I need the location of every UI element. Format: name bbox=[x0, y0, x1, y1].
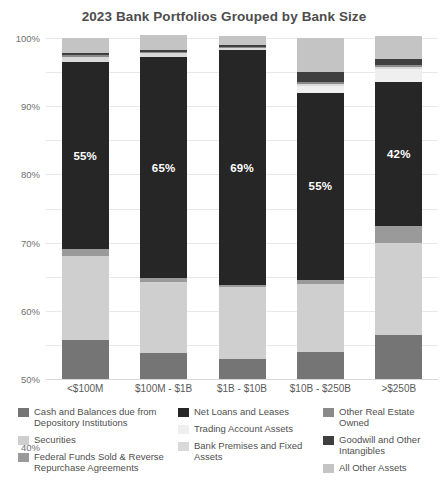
y-axis-tick-label: 90% bbox=[21, 101, 40, 112]
bar-segment[interactable] bbox=[297, 82, 344, 84]
y-axis-tick-label: 100% bbox=[16, 33, 40, 44]
bar-segment[interactable]: 55% bbox=[62, 62, 109, 250]
bar-segment[interactable] bbox=[62, 53, 109, 55]
legend-label: Federal Funds Sold & Reverse Repurchase … bbox=[34, 451, 178, 473]
legend-swatch-icon bbox=[178, 408, 189, 417]
bar-segment[interactable] bbox=[297, 352, 344, 379]
bar-segment[interactable] bbox=[297, 284, 344, 352]
bar-segment[interactable] bbox=[219, 48, 266, 50]
bar-value-label: 55% bbox=[62, 150, 109, 162]
legend-label: All Other Assets bbox=[339, 462, 407, 473]
legend-label: Trading Account Assets bbox=[194, 423, 293, 434]
bar-segment[interactable] bbox=[375, 335, 422, 379]
bar-segment[interactable] bbox=[375, 243, 422, 335]
bar-segment[interactable] bbox=[375, 59, 422, 66]
bar-segment[interactable] bbox=[140, 278, 187, 281]
legend-item[interactable]: Cash and Balances due from Depository In… bbox=[18, 406, 178, 428]
legend-item[interactable]: Federal Funds Sold & Reverse Repurchase … bbox=[18, 451, 178, 473]
legend-swatch-icon bbox=[323, 464, 334, 473]
y-axis-tick-label: 80% bbox=[21, 169, 40, 180]
x-axis-tick-label: >$250B bbox=[360, 383, 438, 394]
legend-column-1: Cash and Balances due from Depository In… bbox=[18, 406, 178, 473]
bar-column[interactable]: 55% bbox=[62, 38, 109, 379]
bar-value-label: 42% bbox=[375, 148, 422, 160]
legend-item[interactable]: Trading Account Assets bbox=[178, 423, 323, 434]
bar-segment[interactable] bbox=[219, 285, 266, 287]
x-axis-tick-label: $100M - $1B bbox=[124, 383, 202, 394]
bar-segment[interactable] bbox=[219, 287, 266, 359]
legend-swatch-icon bbox=[18, 408, 29, 417]
legend-swatch-icon bbox=[323, 408, 334, 417]
legend-swatch-icon bbox=[178, 425, 189, 434]
bar-segment[interactable] bbox=[297, 38, 344, 72]
bar-segment[interactable]: 65% bbox=[140, 57, 187, 279]
bar-segment[interactable] bbox=[297, 86, 344, 93]
legend-item[interactable]: Net Loans and Leases bbox=[178, 406, 323, 417]
bar-segment[interactable] bbox=[297, 84, 344, 86]
bar-value-label: 69% bbox=[219, 162, 266, 174]
legend-item[interactable]: All Other Assets bbox=[323, 462, 438, 473]
y-axis-tick-label: 70% bbox=[21, 237, 40, 248]
legend-swatch-icon bbox=[18, 453, 29, 462]
plot-area: 100%90%80%70%60%50%40%30%20%10%0%55%65%6… bbox=[46, 38, 438, 379]
bar-segment[interactable] bbox=[219, 45, 266, 47]
legend-swatch-icon bbox=[323, 436, 334, 445]
legend-swatch-icon bbox=[178, 442, 189, 451]
legend-item[interactable]: Other Real Estate Owned bbox=[323, 406, 438, 428]
bar-segment[interactable] bbox=[219, 36, 266, 45]
x-axis-tick-label: $10B - $250B bbox=[281, 383, 359, 394]
legend-label: Securities bbox=[34, 434, 76, 445]
y-axis-tick-label: 60% bbox=[21, 305, 40, 316]
legend-swatch-icon bbox=[18, 436, 29, 445]
bar-segment[interactable] bbox=[62, 340, 109, 379]
bar-segment[interactable] bbox=[375, 226, 422, 243]
legend-item[interactable]: Bank Premises and Fixed Assets bbox=[178, 440, 323, 462]
bar-segment[interactable] bbox=[297, 72, 344, 82]
legend-column-3: Other Real Estate OwnedGoodwill and Othe… bbox=[323, 406, 438, 473]
bar-column[interactable]: 55% bbox=[297, 38, 344, 379]
bar-segment[interactable] bbox=[140, 52, 187, 54]
legend-label: Net Loans and Leases bbox=[194, 406, 289, 417]
legend-label: Goodwill and Other Intangibles bbox=[339, 434, 438, 456]
legend-label: Other Real Estate Owned bbox=[339, 406, 438, 428]
bar-column[interactable]: 65% bbox=[140, 35, 187, 379]
bar-segment[interactable] bbox=[297, 280, 344, 283]
bar-segment[interactable] bbox=[375, 67, 422, 69]
legend-item[interactable]: Goodwill and Other Intangibles bbox=[323, 434, 438, 456]
x-axis-tick-label: $1B - $10B bbox=[203, 383, 281, 394]
bar-segment[interactable] bbox=[219, 359, 266, 379]
bar-segment[interactable] bbox=[140, 353, 187, 379]
bar-column[interactable]: 42% bbox=[375, 36, 422, 379]
x-axis-line bbox=[46, 379, 438, 380]
legend-label: Cash and Balances due from Depository In… bbox=[34, 406, 178, 428]
bar-segment[interactable] bbox=[62, 57, 109, 62]
bar-segment[interactable] bbox=[140, 35, 187, 50]
bar-segment[interactable] bbox=[62, 55, 109, 57]
bar-segment[interactable] bbox=[140, 53, 187, 56]
bar-segment[interactable] bbox=[219, 47, 266, 49]
bar-segment[interactable] bbox=[140, 282, 187, 354]
chart-legend: Cash and Balances due from Depository In… bbox=[18, 406, 438, 473]
bar-column[interactable]: 69% bbox=[219, 36, 266, 379]
bar-segment[interactable] bbox=[62, 256, 109, 340]
bar-segment[interactable]: 69% bbox=[219, 50, 266, 285]
x-axis-tick-label: <$100M bbox=[46, 383, 124, 394]
legend-column-2: Net Loans and LeasesTrading Account Asse… bbox=[178, 406, 323, 473]
bar-segment[interactable]: 55% bbox=[297, 93, 344, 281]
y-axis-tick-label: 50% bbox=[21, 374, 40, 385]
bar-segment[interactable] bbox=[62, 38, 109, 53]
bar-segment[interactable]: 42% bbox=[375, 82, 422, 225]
bar-segment[interactable] bbox=[375, 65, 422, 67]
bar-segment[interactable] bbox=[375, 69, 422, 83]
legend-label: Bank Premises and Fixed Assets bbox=[194, 440, 323, 462]
legend-item[interactable]: Securities bbox=[18, 434, 178, 445]
page-title: 2023 Bank Portfolios Grouped by Bank Siz… bbox=[0, 9, 448, 24]
bar-segment[interactable] bbox=[140, 50, 187, 52]
bar-value-label: 55% bbox=[297, 180, 344, 192]
bar-segment[interactable] bbox=[62, 249, 109, 256]
bar-segment[interactable] bbox=[375, 36, 422, 58]
bar-value-label: 65% bbox=[140, 162, 187, 174]
